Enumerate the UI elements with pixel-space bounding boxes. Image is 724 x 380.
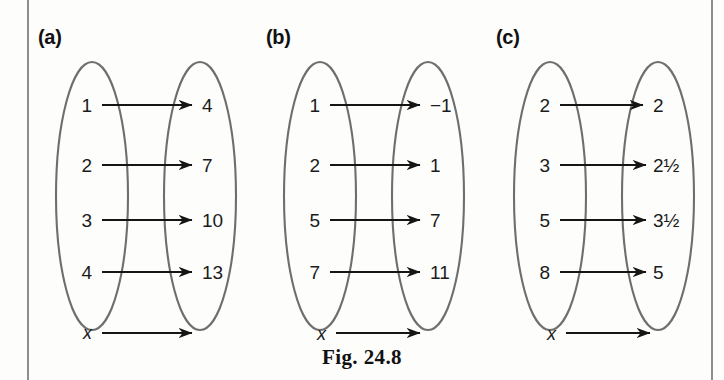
range-value: 5 (653, 263, 664, 282)
range-value: 2 (653, 96, 664, 115)
domain-value: 1 (81, 96, 92, 115)
domain-set-ellipse (514, 62, 586, 330)
mapping-diagram-b (258, 0, 488, 380)
mapping-panel-b: (b) 1 2 5 7 x −1 1 7 11 (258, 0, 488, 380)
mapping-panel-a: (a) 1 2 3 4 x 4 7 10 13 (30, 0, 260, 380)
domain-value: 5 (309, 211, 320, 230)
domain-value: 4 (81, 263, 92, 282)
domain-variable: x (547, 325, 556, 343)
mapping-diagram-a (30, 0, 260, 380)
range-value: 7 (430, 211, 441, 230)
domain-value: 2 (309, 156, 320, 175)
mapping-diagram-c (488, 0, 718, 380)
domain-variable: x (83, 324, 92, 342)
figure-caption: Fig. 24.8 (0, 345, 724, 370)
domain-value: 3 (81, 211, 92, 230)
domain-variable: x (317, 325, 326, 343)
domain-value: 8 (539, 263, 550, 282)
range-value: 10 (202, 211, 223, 230)
domain-value: 5 (539, 211, 550, 230)
range-value: 7 (202, 156, 213, 175)
domain-set-ellipse (56, 62, 128, 330)
range-value: 1 (430, 156, 441, 175)
page-margin-rule-left (27, 0, 29, 380)
range-value: 4 (202, 96, 213, 115)
range-set-ellipse (164, 62, 236, 330)
range-value: 13 (202, 263, 223, 282)
domain-value: 2 (539, 96, 550, 115)
mapping-panel-c: (c) 2 3 5 8 x 2 2½ 3½ 5 (488, 0, 718, 380)
range-value: −1 (430, 96, 452, 115)
range-value: 11 (430, 263, 450, 282)
domain-set-ellipse (284, 62, 356, 330)
range-value: 2½ (653, 156, 679, 175)
domain-value: 2 (81, 156, 92, 175)
range-value: 3½ (653, 211, 679, 230)
domain-value: 7 (309, 263, 320, 282)
range-set-ellipse (392, 62, 464, 330)
domain-value: 1 (309, 96, 320, 115)
domain-value: 3 (539, 156, 550, 175)
